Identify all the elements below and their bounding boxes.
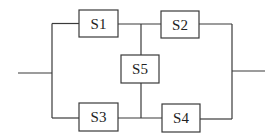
component-s1: S1 (79, 10, 118, 37)
component-label: S3 (91, 109, 107, 125)
component-s3: S3 (79, 103, 118, 131)
component-s4: S4 (162, 104, 200, 132)
component-label: S4 (173, 110, 189, 126)
component-s2: S2 (161, 11, 199, 38)
component-label: S5 (132, 61, 148, 77)
component-s5: S5 (121, 55, 159, 83)
component-label: S1 (91, 16, 107, 32)
component-label: S2 (172, 17, 188, 33)
bridge-diagram: S1 S2 S5 S3 S4 (0, 0, 279, 139)
